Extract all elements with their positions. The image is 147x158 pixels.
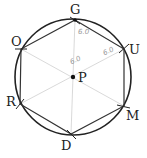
annotation-pu-outer: 6.0: [102, 45, 116, 57]
annotation-pg: 6.0: [78, 28, 90, 36]
label-o: O: [11, 34, 22, 49]
label-r: R: [6, 94, 17, 109]
center-point: [71, 75, 75, 79]
hexagon-diagram: G U M D R O P 6.0 6.0 6.0: [0, 0, 147, 158]
label-g: G: [70, 2, 80, 17]
annotation-pu-inner: 6.0: [69, 54, 83, 66]
label-m: M: [126, 108, 139, 123]
vertex-point-g: [73, 18, 77, 22]
label-p: P: [78, 70, 87, 85]
label-u: U: [129, 42, 140, 57]
label-d: D: [61, 138, 71, 153]
